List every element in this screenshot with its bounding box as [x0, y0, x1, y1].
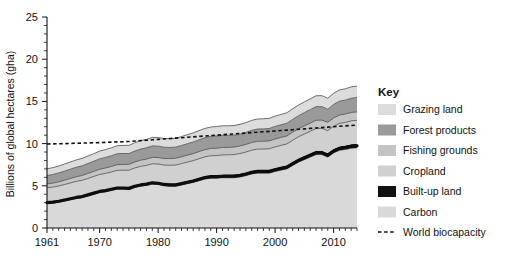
legend-swatch — [378, 104, 396, 115]
x-tick-label: 2000 — [263, 236, 287, 248]
x-tick-label: 1980 — [146, 236, 170, 248]
legend-label: Cropland — [403, 165, 446, 177]
x-tick-label: 1990 — [204, 236, 228, 248]
legend-item-forest-products[interactable]: Forest products — [378, 124, 476, 136]
legend-label: Forest products — [403, 124, 476, 136]
y-axis-title: Billions of global hectares (gha) — [4, 51, 16, 198]
x-tick-label: 2010 — [321, 236, 345, 248]
legend-swatch — [378, 207, 396, 218]
legend-label: World biocapacity — [403, 226, 486, 238]
legend-title: Key — [378, 86, 400, 98]
legend-label: Grazing land — [403, 103, 463, 115]
footprint-area-chart: 0510152025 196119701980199020002010 Bill… — [0, 0, 506, 263]
legend-swatch — [378, 125, 396, 136]
legend-item-grazing-land[interactable]: Grazing land — [378, 103, 463, 115]
x-axis-tick-labels: 196119701980199020002010 — [35, 236, 346, 248]
legend-swatch — [378, 145, 396, 156]
legend-label: Fishing grounds — [403, 144, 478, 156]
y-tick-label: 20 — [26, 53, 38, 65]
legend-item-built-up-land[interactable]: Built-up land — [378, 185, 462, 197]
x-tick-label: 1970 — [87, 236, 111, 248]
legend-label: Built-up land — [403, 185, 462, 197]
y-tick-label: 15 — [26, 95, 38, 107]
y-tick-label: 25 — [26, 11, 38, 23]
legend-item-fishing-grounds[interactable]: Fishing grounds — [378, 144, 478, 156]
legend-item-world-biocapacity[interactable]: World biocapacity — [378, 226, 486, 238]
chart-container: 0510152025 196119701980199020002010 Bill… — [0, 0, 506, 263]
legend-swatch — [378, 166, 396, 177]
y-tick-label: 5 — [32, 180, 38, 192]
x-tick-label: 1961 — [35, 236, 59, 248]
legend: KeyGrazing landForest productsFishing gr… — [378, 86, 486, 238]
legend-swatch — [378, 186, 396, 197]
legend-item-cropland[interactable]: Cropland — [378, 165, 446, 177]
legend-label: Carbon — [403, 206, 438, 218]
y-axis-tick-labels: 0510152025 — [26, 11, 38, 234]
y-tick-label: 10 — [26, 138, 38, 150]
legend-item-carbon[interactable]: Carbon — [378, 206, 438, 218]
y-tick-label: 0 — [32, 222, 38, 234]
